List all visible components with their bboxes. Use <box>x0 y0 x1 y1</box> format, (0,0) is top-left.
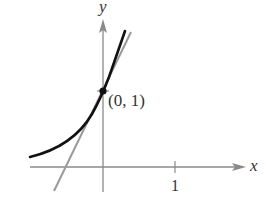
point-of-tangency <box>99 87 106 94</box>
x-tick-label-1: 1 <box>171 178 179 194</box>
y-axis-label: y <box>99 0 107 15</box>
point-label: (0, 1) <box>108 92 145 109</box>
x-axis-label: x <box>250 157 258 174</box>
tangent-line-diagram: y x 1 (0, 1) <box>0 0 266 207</box>
